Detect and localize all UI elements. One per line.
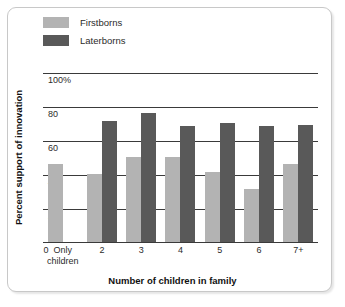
xtick-label-5: 5: [200, 245, 239, 256]
chart-legend: Firstborns Laterborns: [43, 15, 173, 51]
x-axis-ticks: 0Onlychildren234567+: [43, 245, 318, 275]
bar-firstborns: [87, 174, 102, 242]
bar-firstborns: [283, 164, 298, 242]
chart-figure: Firstborns Laterborns 100% 80 60 40 20 0…: [0, 0, 345, 307]
legend-item-laterborns: Laterborns: [43, 33, 173, 48]
bar-laterborns: [180, 126, 195, 242]
bar-firstborns: [48, 164, 63, 242]
x-axis-line: [43, 242, 318, 243]
bar-group: [122, 73, 161, 242]
y-axis-title: Percent support of innovation: [13, 78, 24, 238]
xtick-label-2: 2: [82, 245, 121, 256]
xtick-label-6: 6: [239, 245, 278, 256]
bar-laterborns: [102, 121, 117, 242]
bar-group: [82, 73, 121, 242]
plot-area: 100% 80 60 40 20: [43, 73, 318, 242]
bar-firstborns: [205, 172, 220, 242]
legend-item-firstborns: Firstborns: [43, 15, 173, 30]
legend-swatch-firstborns: [43, 17, 69, 28]
bar-laterborns: [220, 123, 235, 242]
bar-firstborns: [126, 157, 141, 242]
legend-swatch-laterborns: [43, 35, 69, 46]
bar-group: [200, 73, 239, 242]
bars-layer: [43, 73, 318, 242]
xtick-label-7+: 7+: [279, 245, 318, 256]
bar-laterborns: [141, 113, 156, 242]
bar-firstborns: [165, 157, 180, 242]
xtick-label-only-children: Onlychildren: [43, 245, 82, 266]
bar-group: [239, 73, 278, 242]
bar-laterborns: [259, 126, 274, 242]
legend-label-laterborns: Laterborns: [80, 35, 125, 46]
x-axis-title: Number of children in family: [0, 275, 345, 286]
legend-label-firstborns: Firstborns: [80, 17, 122, 28]
xtick-label-4: 4: [161, 245, 200, 256]
bar-group: [279, 73, 318, 242]
bar-group: [161, 73, 200, 242]
bar-group: [43, 73, 82, 242]
xtick-label-3: 3: [122, 245, 161, 256]
bar-firstborns: [244, 189, 259, 242]
bar-laterborns: [298, 125, 313, 242]
